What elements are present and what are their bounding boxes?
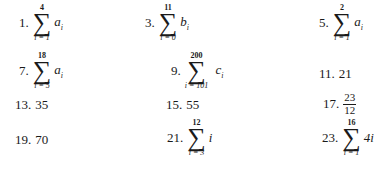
denominator: 12: [344, 105, 355, 117]
lower-limit: i = 101: [185, 82, 209, 90]
sigma-icon: ∑: [33, 12, 52, 34]
answer-15: 15. 55: [166, 97, 199, 113]
item-number: 13.: [15, 97, 31, 113]
sigma-icon: ∑: [187, 127, 206, 149]
answer-value: 35: [35, 97, 48, 113]
answer-value: 21: [339, 66, 352, 82]
item-number: 3.: [145, 15, 155, 31]
summand: i: [209, 130, 213, 146]
item-number: 9.: [171, 63, 181, 79]
lower-limit: i = 1: [334, 34, 350, 42]
lower-limit: i = 3: [189, 149, 205, 157]
answer-3: 3. 11 ∑ i = 0 bi: [145, 4, 189, 42]
summation: 200 ∑ i = 101: [185, 52, 209, 90]
summand: 4i: [364, 130, 374, 146]
item-number: 23.: [322, 130, 338, 146]
item-number: 5.: [319, 15, 329, 31]
summand: ci: [215, 62, 223, 80]
summation: 12 ∑ i = 3: [187, 119, 206, 157]
summation: 4 ∑ i = 1: [33, 4, 52, 42]
summation: 18 ∑ i = 5: [33, 52, 52, 90]
answer-9: 9. 200 ∑ i = 101 ci: [171, 52, 223, 90]
lower-limit: i = 1: [344, 149, 360, 157]
summation: 11 ∑ i = 0: [159, 4, 178, 42]
numerator: 23: [343, 92, 356, 105]
item-number: 17.: [323, 96, 339, 112]
sigma-icon: ∑: [187, 60, 206, 82]
sigma-icon: ∑: [333, 12, 352, 34]
item-number: 19.: [15, 132, 31, 148]
lower-limit: i = 1: [34, 34, 50, 42]
item-number: 15.: [166, 97, 182, 113]
sigma-icon: ∑: [342, 127, 361, 149]
lower-limit: i = 5: [34, 82, 50, 90]
summand: bi: [180, 14, 189, 32]
lower-limit: i = 0: [160, 34, 176, 42]
answer-value: 70: [35, 132, 48, 148]
sigma-icon: ∑: [159, 12, 178, 34]
item-number: 7.: [19, 63, 29, 79]
item-number: 21.: [167, 130, 183, 146]
answer-21: 21. 12 ∑ i = 3 i: [167, 119, 212, 157]
answer-19: 19. 70: [15, 132, 48, 148]
answer-17: 17. 23 12: [323, 92, 356, 116]
answer-11: 11. 21: [319, 66, 352, 82]
answer-1: 1. 4 ∑ i = 1 ai: [19, 4, 63, 42]
answer-13: 13. 35: [15, 97, 48, 113]
summand: ai: [354, 14, 363, 32]
answer-7: 7. 18 ∑ i = 5 ai: [19, 52, 63, 90]
summand: ai: [54, 14, 63, 32]
summation: 2 ∑ i = 1: [333, 4, 352, 42]
sigma-icon: ∑: [33, 60, 52, 82]
answer-23: 23. 16 ∑ i = 1 4i: [322, 119, 374, 157]
answer-5: 5. 2 ∑ i = 1 ai: [319, 4, 363, 42]
fraction: 23 12: [343, 92, 356, 116]
summation: 16 ∑ i = 1: [342, 119, 361, 157]
item-number: 1.: [19, 15, 29, 31]
item-number: 11.: [319, 66, 335, 82]
answer-value: 55: [186, 97, 199, 113]
summand: ai: [54, 62, 63, 80]
